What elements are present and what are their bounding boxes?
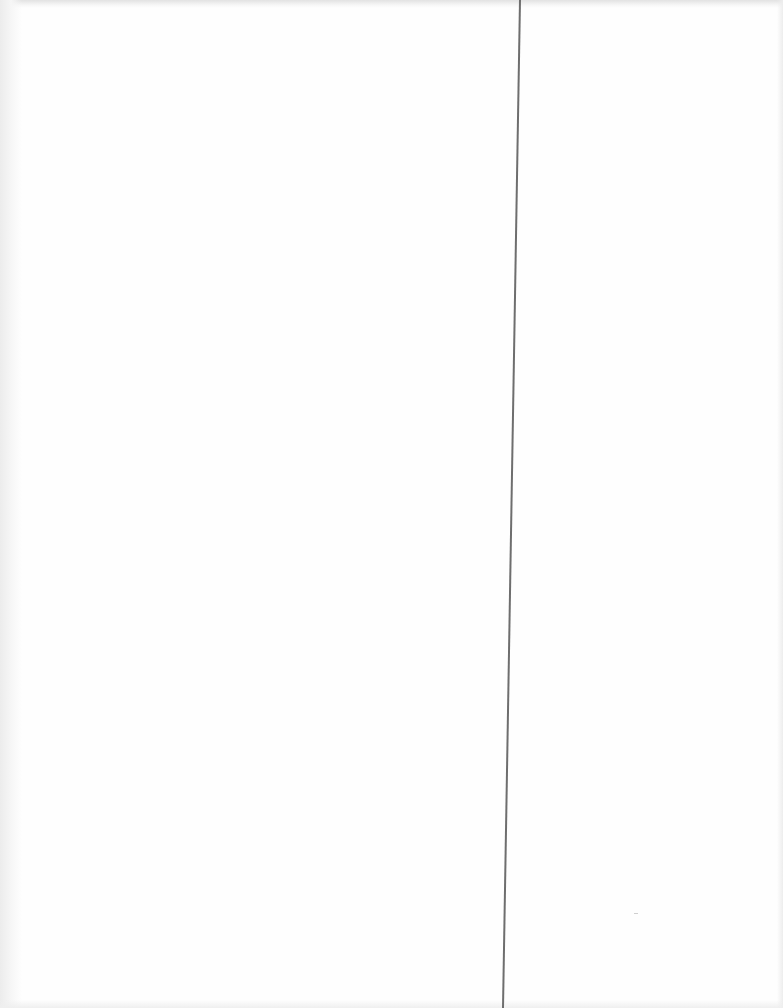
vertical-divider-line: [0, 0, 783, 1008]
scan-speck: [634, 913, 638, 914]
